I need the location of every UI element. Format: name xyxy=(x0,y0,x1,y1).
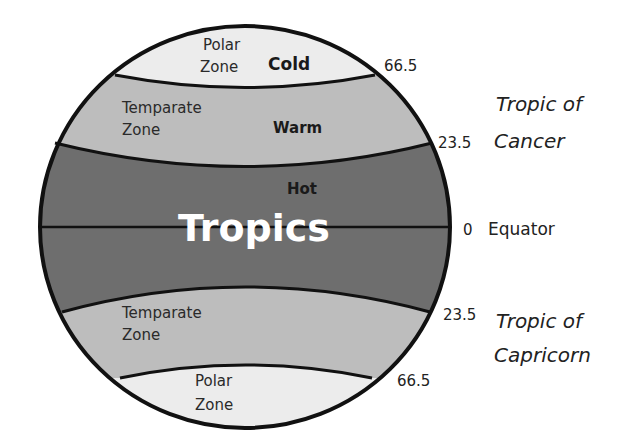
north-temperate-label-1: Temparate xyxy=(121,99,202,117)
tropics-label: Tropics xyxy=(178,206,330,250)
hot-label: Hot xyxy=(287,180,317,198)
arctic-degrees: 66.5 xyxy=(384,57,417,75)
capricorn-degrees: 23.5 xyxy=(443,306,476,324)
equator-label: Equator xyxy=(488,219,555,239)
antarctic-degrees: 66.5 xyxy=(397,372,430,390)
tropic-of-cancer-label-2: Cancer xyxy=(494,129,566,153)
tropic-of-capricorn-label-2: Capricorn xyxy=(494,343,591,367)
north-polar-label-1: Polar xyxy=(203,36,241,54)
north-polar-band xyxy=(30,20,460,88)
tropic-of-capricorn-label-1: Tropic of xyxy=(496,309,585,333)
warm-label: Warm xyxy=(273,119,322,137)
south-temperate-label-1: Temparate xyxy=(121,304,202,322)
climate-zones-diagram: Polar Zone Cold Temparate Zone Warm Hot … xyxy=(0,0,624,448)
equator-degrees: 0 xyxy=(463,221,473,239)
cancer-degrees: 23.5 xyxy=(438,134,471,152)
south-polar-label-2: Zone xyxy=(195,396,233,414)
tropic-of-cancer-label-1: Tropic of xyxy=(496,92,585,116)
north-polar-label-2: Zone xyxy=(200,58,238,76)
cold-label: Cold xyxy=(268,54,310,74)
south-temperate-label-2: Zone xyxy=(122,326,160,344)
south-polar-label-1: Polar xyxy=(195,372,233,390)
north-temperate-label-2: Zone xyxy=(122,121,160,139)
